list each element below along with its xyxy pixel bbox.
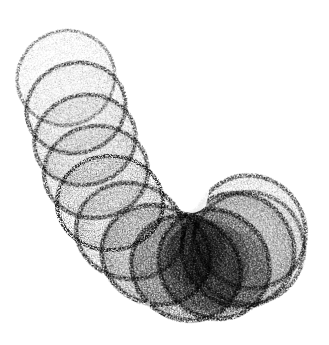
artwork-canvas: Stippled Overlapping Ellipse Chain Abstr… [0,0,329,345]
stipple-artwork: Stippled Overlapping Ellipse Chain Abstr… [0,0,329,345]
